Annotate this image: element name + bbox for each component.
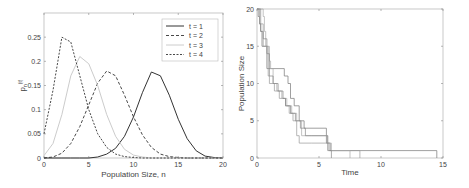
x-tick-label: 10 xyxy=(377,161,385,168)
x-tick-label: 10 xyxy=(130,161,138,168)
y-tick-label: 10 xyxy=(246,80,254,87)
x-axis-label: Population Size, n xyxy=(101,170,166,179)
right-plot: 05101505101520TimePopulation Size xyxy=(237,6,447,178)
y-axis-label: Population Size xyxy=(237,55,246,111)
x-tick-label: 15 xyxy=(174,161,182,168)
x-tick-label: 0 xyxy=(42,161,46,168)
series-line xyxy=(44,71,223,158)
legend-label: t = 2 xyxy=(189,32,203,39)
legend-label: t = 4 xyxy=(189,51,203,58)
x-tick-label: 20 xyxy=(219,161,227,168)
legend-label: t = 3 xyxy=(189,42,203,49)
y-tick-label: 0 xyxy=(37,155,41,162)
left-plot: 0510152000.050.10.150.20.25Population Si… xyxy=(17,13,227,179)
x-tick-label: 5 xyxy=(317,161,321,168)
x-tick-label: 15 xyxy=(439,161,447,168)
x-tick-label: 5 xyxy=(87,161,91,168)
right-axes-box xyxy=(257,9,443,158)
x-tick-label: 0 xyxy=(255,161,259,168)
y-tick-label: 0.25 xyxy=(27,34,41,41)
step-trajectory xyxy=(257,9,331,158)
step-trajectory xyxy=(257,9,437,158)
y-tick-label: 5 xyxy=(250,117,254,124)
series-line xyxy=(44,72,223,158)
y-tick-label: 0.2 xyxy=(31,58,41,65)
chart-figure: 0510152000.050.10.150.20.25Population Si… xyxy=(0,0,469,188)
y-tick-label: 15 xyxy=(246,43,254,50)
y-axis-label: pn(t) xyxy=(17,79,28,91)
legend-label: t = 1 xyxy=(189,23,203,30)
y-tick-label: 20 xyxy=(246,6,254,13)
y-tick-label: 0.15 xyxy=(27,82,41,89)
y-tick-label: 0 xyxy=(250,155,254,162)
x-axis-label: Time xyxy=(341,168,359,177)
y-tick-label: 0.05 xyxy=(27,130,41,137)
y-tick-label: 0.1 xyxy=(31,106,41,113)
